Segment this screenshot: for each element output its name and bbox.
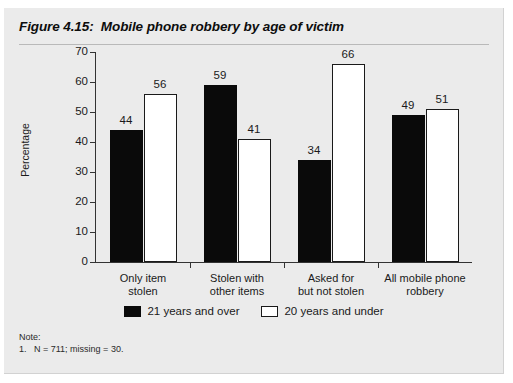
chart-legend: 21 years and over20 years and under <box>4 305 504 317</box>
y-axis-title: Percentage <box>19 95 31 205</box>
bar <box>110 130 143 262</box>
y-axis-tick-label: 0 <box>82 256 88 268</box>
y-axis-tick-labels: 706050403020100 <box>60 52 88 262</box>
y-axis-tick-label: 30 <box>75 166 88 178</box>
bar-value-label: 41 <box>238 124 271 136</box>
category-label-line: All mobile phone <box>370 272 480 285</box>
bar-value-label: 51 <box>426 94 459 106</box>
figure-panel: Figure 4.15: Mobile phone robbery by age… <box>4 8 504 374</box>
x-axis-separator-tick <box>190 263 191 268</box>
bar <box>204 85 237 262</box>
y-axis-tick-label: 50 <box>75 106 88 118</box>
category-label-line: robbery <box>370 285 480 298</box>
y-axis-tick-label: 20 <box>75 196 88 208</box>
bar-value-label: 56 <box>144 79 177 91</box>
bar <box>392 115 425 262</box>
bar <box>298 160 331 262</box>
title-divider <box>19 44 489 45</box>
figure-title: Figure 4.15: Mobile phone robbery by age… <box>19 19 344 34</box>
legend-entry: 21 years and over <box>124 305 239 317</box>
legend-swatch-icon <box>124 306 141 317</box>
bar <box>144 94 177 262</box>
legend-swatch-icon <box>261 306 278 317</box>
bar-value-label: 44 <box>110 115 143 127</box>
y-axis-tick-label: 70 <box>75 46 88 58</box>
bar <box>426 109 459 262</box>
bar <box>332 64 365 262</box>
note-line-1: 1. N = 711; missing = 30. <box>19 343 123 355</box>
x-axis-separator-tick <box>378 263 379 268</box>
x-axis-category-label: All mobile phonerobbery <box>370 272 480 298</box>
y-axis-tick-label: 10 <box>75 226 88 238</box>
legend-entry: 20 years and under <box>261 305 383 317</box>
bar-value-label: 66 <box>332 49 365 61</box>
legend-label: 21 years and over <box>147 305 239 317</box>
x-axis-separator-tick <box>284 263 285 268</box>
legend-label: 20 years and under <box>284 305 383 317</box>
note-heading: Note: <box>19 331 123 343</box>
chart-plot-area: Percentage 706050403020100 4456594134664… <box>4 52 504 300</box>
bar-value-label: 59 <box>204 70 237 82</box>
bar <box>238 139 271 262</box>
bar-value-label: 49 <box>392 100 425 112</box>
y-axis-tick-label: 60 <box>75 76 88 88</box>
bar-value-label: 34 <box>298 145 331 157</box>
y-axis-tick-label: 40 <box>75 136 88 148</box>
figure-note: Note: 1. N = 711; missing = 30. <box>19 331 123 355</box>
